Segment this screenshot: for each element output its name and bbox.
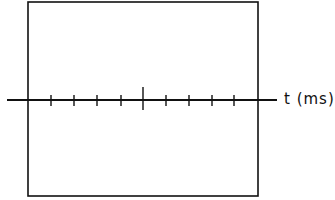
axis-label-time-ms: t (ms): [284, 90, 335, 108]
axis-ticks: [51, 87, 234, 110]
